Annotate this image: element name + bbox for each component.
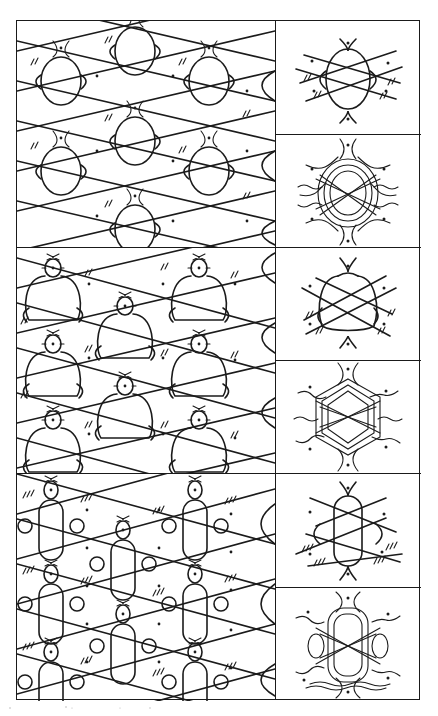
ground-2-worked: [276, 361, 421, 473]
lace-cell-worked-1: [276, 135, 421, 247]
lace-cell-schematic-1: [276, 21, 421, 134]
paper-specks: [0, 704, 438, 716]
lace-cell-worked-2: [276, 361, 421, 473]
ground-1-schematic: [276, 21, 421, 134]
ground-3-schematic: [276, 474, 421, 587]
figure-frame: [16, 20, 420, 700]
ground-pattern-1: [17, 21, 275, 247]
lace-mesh-pattern-1: [17, 21, 275, 247]
ground-pattern-2: [17, 248, 275, 473]
lace-mesh-pattern-2: [17, 248, 275, 473]
lace-cell-worked-3: [276, 588, 421, 701]
ground-1-worked: [276, 135, 421, 247]
lace-cell-schematic-2: [276, 248, 421, 360]
ground-2-schematic: [276, 248, 421, 360]
lace-cell-schematic-3: [276, 474, 421, 587]
ground-pattern-3: [17, 474, 275, 701]
ground-3-worked: [276, 588, 421, 701]
lace-mesh-pattern-3: [17, 474, 275, 701]
